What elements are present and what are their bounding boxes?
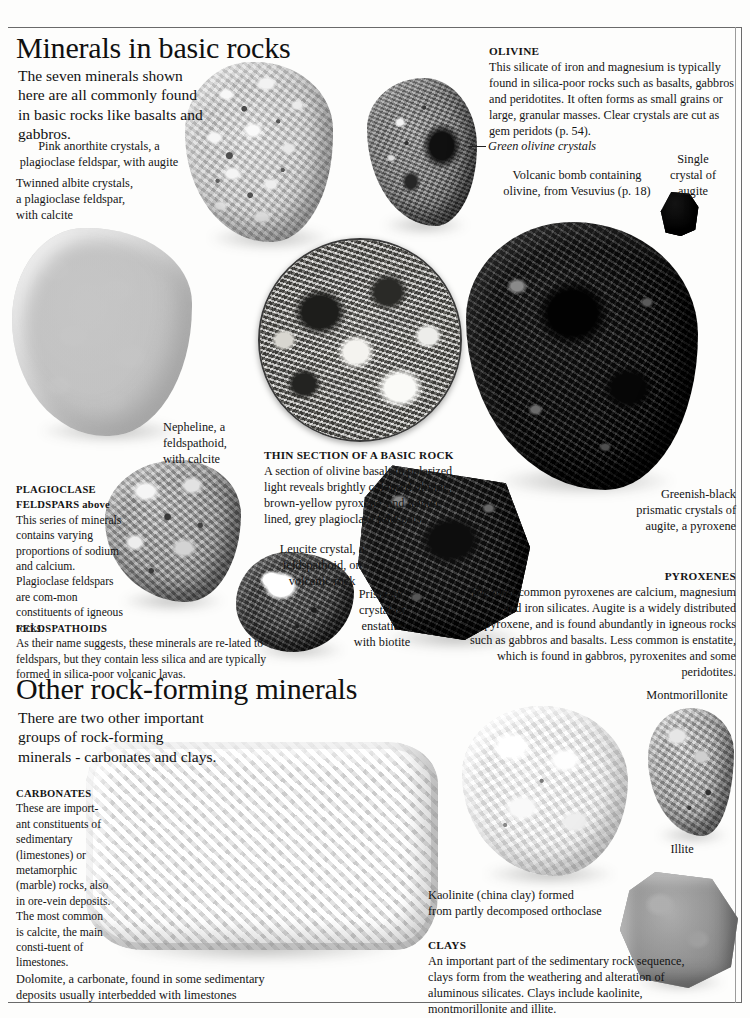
text-block-clays: CLAYS An important part of the sedimenta… xyxy=(428,938,700,1018)
caption-enstatite: Prismatic crystal of enstatite with biot… xyxy=(330,587,434,651)
pyroxenes-body: The most common pyroxenes are calcium, m… xyxy=(470,585,736,679)
caption-nepheline: Nepheline, a feldspathoid, with calcite xyxy=(163,420,273,468)
text-block-plagioclase: PLAGIOCLASE FELDSPARS above This series … xyxy=(16,482,128,636)
plagioclase-heading-2: FELDSPARS xyxy=(16,499,79,510)
text-block-carbonates: CARBONATES These are import-ant constitu… xyxy=(16,786,112,971)
thin-section-heading: THIN SECTION OF A BASIC ROCK xyxy=(264,449,454,461)
olivine-heading: OLIVINE xyxy=(489,45,539,57)
feldspathoids-heading: FELDSPATHOIDS xyxy=(16,623,107,634)
plagioclase-body: This series of minerals contains varying… xyxy=(16,514,123,635)
clays-body: An important part of the sedimentary roc… xyxy=(428,954,685,1016)
page-frame-top xyxy=(8,27,742,28)
dolomite-rock xyxy=(86,742,438,950)
thin-section-body: A section of olivine basalt in polarized… xyxy=(264,464,452,526)
caption-kaolinite: Kaolinite (china clay) formed from partl… xyxy=(428,888,658,920)
carbonates-heading: CARBONATES xyxy=(16,788,91,799)
caption-montmorillonite: Montmorillonite xyxy=(628,688,746,704)
plagioclase-heading: PLAGIOCLASE xyxy=(16,484,96,495)
thin-section-circle xyxy=(258,238,462,442)
section-intro-basic-rocks: The seven minerals shown here are all co… xyxy=(18,66,208,144)
plagioclase-heading-italic: above xyxy=(82,499,110,510)
caption-leucite: Leucite crystal, a feldspathoid, on volc… xyxy=(258,542,386,590)
caption-albite: Twinned albite crystals, a plagioclase f… xyxy=(16,176,186,224)
olivine-body: This silicate of iron and magnesium is t… xyxy=(489,60,734,138)
carbonates-body: These are import-ant constituents of sed… xyxy=(16,802,110,969)
page-frame-right xyxy=(741,27,742,1003)
caption-augite-prismatic: Greenish-black prismatic crystals of aug… xyxy=(560,487,736,535)
pyroxenes-heading: PYROXENES xyxy=(665,570,736,582)
augite-mass-rock xyxy=(466,222,698,490)
caption-single-augite: Single crystal of augite xyxy=(652,152,734,200)
montmorillonite-rock xyxy=(648,708,734,836)
section-title-other-minerals: Other rock-forming minerals xyxy=(16,673,357,705)
volcanic-bomb-rock xyxy=(367,78,477,226)
clays-heading: CLAYS xyxy=(428,939,466,951)
text-block-thin-section: THIN SECTION OF A BASIC ROCK A section o… xyxy=(264,448,454,528)
section-title-basic-rocks: Minerals in basic rocks xyxy=(16,32,291,64)
caption-green-olivine: Green olivine crystals xyxy=(488,139,678,155)
albite-rock xyxy=(12,228,192,436)
text-block-olivine: OLIVINE This silicate of iron and magnes… xyxy=(489,44,741,140)
section-intro-other-minerals: There are two other important groups of … xyxy=(18,708,218,766)
caption-illite: Illite xyxy=(634,842,730,858)
page-root: Minerals in basic rocks The seven minera… xyxy=(0,0,750,1018)
kaolinite-rock xyxy=(462,706,628,876)
caption-volcanic-bomb: Volcanic bomb containing olivine, from V… xyxy=(490,168,664,200)
caption-anorthite: Pink anorthite crystals, a plagioclase f… xyxy=(8,139,190,171)
text-block-pyroxenes: PYROXENES The most common pyroxenes are … xyxy=(460,569,736,681)
green-olivine-leader-line xyxy=(468,146,486,147)
caption-dolomite: Dolomite, a carbonate, found in some sed… xyxy=(16,972,326,1004)
